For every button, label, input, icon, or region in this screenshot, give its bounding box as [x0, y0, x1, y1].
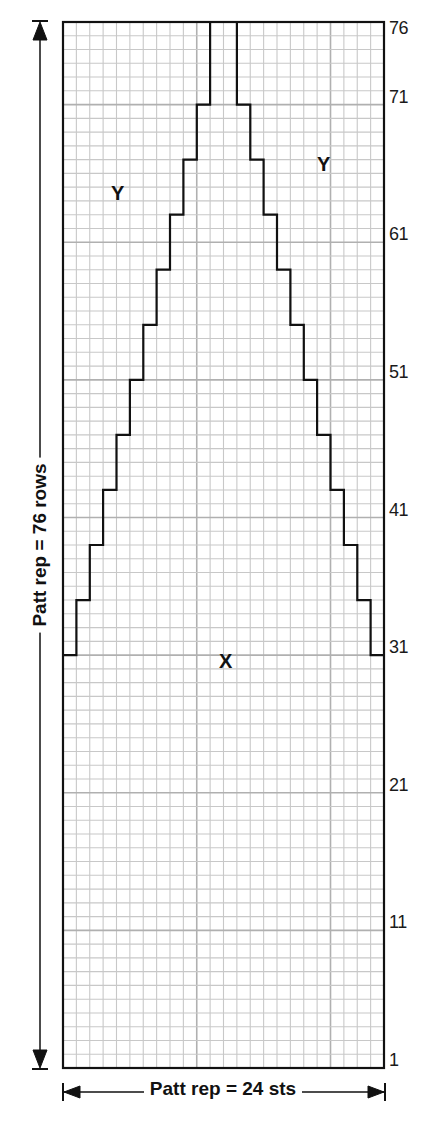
- region-label-y-right: Y: [317, 153, 330, 176]
- row-label-41: 41: [389, 500, 408, 521]
- region-label-x: X: [219, 650, 232, 673]
- knitting-chart: [0, 0, 436, 1130]
- arrow-down-icon: [33, 1050, 47, 1068]
- row-label-21: 21: [389, 775, 408, 796]
- height-caption-text: Patt rep = 76 rows: [29, 457, 50, 632]
- chart-grid: [63, 22, 384, 1068]
- row-label-31: 31: [389, 637, 408, 658]
- row-label-11: 11: [389, 912, 407, 933]
- region-label-y-left: Y: [111, 182, 124, 205]
- row-label-71: 71: [389, 87, 408, 108]
- height-caption: Patt rep = 76 rows: [29, 457, 51, 632]
- row-label-51: 51: [389, 362, 408, 383]
- row-label-1: 1: [389, 1050, 399, 1071]
- width-caption-text: Patt rep = 24 sts: [144, 1078, 302, 1099]
- row-label-76: 76: [389, 18, 408, 39]
- row-label-61: 61: [389, 224, 408, 245]
- width-caption: Patt rep = 24 sts: [0, 1078, 436, 1100]
- arrow-up-icon: [33, 22, 47, 40]
